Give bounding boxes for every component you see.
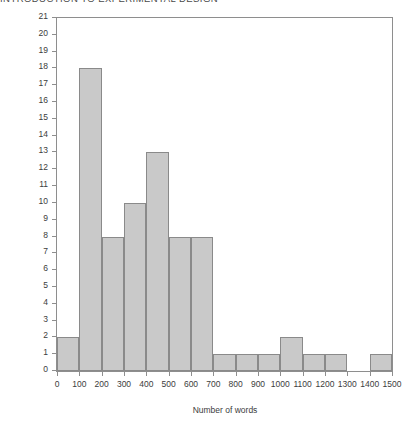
histogram-bar — [57, 337, 79, 371]
y-axis-tick: 8 — [52, 236, 57, 237]
x-axis-tick: 1000 — [280, 371, 281, 376]
histogram-bar — [236, 354, 258, 371]
y-axis-tick-label: 1 — [43, 347, 48, 357]
y-axis-tick: 20 — [52, 34, 57, 35]
y-axis-tick: 9 — [52, 219, 57, 220]
x-axis-tick-label: 1000 — [271, 379, 290, 389]
x-axis-title: Number of words — [56, 405, 394, 415]
y-axis-tick: 14 — [52, 135, 57, 136]
y-axis-tick-label: 4 — [43, 297, 48, 307]
x-axis-tick-label: 500 — [162, 379, 176, 389]
x-axis-tick: 300 — [124, 371, 125, 376]
y-axis-tick-label: 9 — [43, 213, 48, 223]
histogram-bar — [280, 337, 302, 371]
x-axis-tick: 100 — [79, 371, 80, 376]
y-axis-tick-label: 19 — [39, 45, 48, 55]
y-axis-tick-label: 21 — [39, 11, 48, 21]
x-axis-tick-label: 100 — [72, 379, 86, 389]
x-axis-tick-label: 700 — [206, 379, 220, 389]
y-axis-tick-label: 15 — [39, 112, 48, 122]
x-axis-tick: 600 — [191, 371, 192, 376]
y-axis-tick: 19 — [52, 51, 57, 52]
x-axis-tick-label: 1400 — [360, 379, 379, 389]
x-axis-tick-label: 300 — [117, 379, 131, 389]
y-axis-tick: 17 — [52, 84, 57, 85]
x-axis-tick: 500 — [169, 371, 170, 376]
y-axis-tick: 2 — [52, 336, 57, 337]
plot-area: 0123456789101112131415161718192021010020… — [56, 17, 393, 372]
y-axis-tick: 4 — [52, 303, 57, 304]
x-axis-tick: 200 — [102, 371, 103, 376]
y-axis-tick: 21 — [52, 17, 57, 18]
y-axis-tick: 6 — [52, 269, 57, 270]
x-axis-tick: 1200 — [325, 371, 326, 376]
x-axis-tick-label: 400 — [139, 379, 153, 389]
histogram-bar — [169, 237, 191, 371]
histogram-bar — [325, 354, 347, 371]
y-axis-tick-label: 14 — [39, 129, 48, 139]
x-axis-tick-label: 800 — [229, 379, 243, 389]
histogram-bar — [303, 354, 325, 371]
y-axis-tick: 11 — [52, 185, 57, 186]
histogram-bar — [146, 152, 168, 371]
x-axis-tick-label: 900 — [251, 379, 265, 389]
y-axis-tick: 18 — [52, 67, 57, 68]
histogram-bar — [258, 354, 280, 371]
y-axis-tick: 16 — [52, 101, 57, 102]
histogram-bar — [102, 237, 124, 371]
histogram-bar — [370, 354, 392, 371]
y-axis-tick-label: 0 — [43, 364, 48, 374]
x-axis-tick: 0 — [57, 371, 58, 376]
x-axis-tick-label: 1500 — [383, 379, 402, 389]
y-axis-tick-label: 20 — [39, 28, 48, 38]
x-axis-tick-label: 0 — [55, 379, 60, 389]
x-axis-tick-label: 600 — [184, 379, 198, 389]
y-axis-tick-label: 10 — [39, 196, 48, 206]
y-axis-tick: 1 — [52, 353, 57, 354]
x-axis-tick: 900 — [258, 371, 259, 376]
x-axis-tick-label: 1200 — [316, 379, 335, 389]
y-axis-tick-label: 17 — [39, 78, 48, 88]
x-axis-tick: 400 — [146, 371, 147, 376]
y-axis-tick: 15 — [52, 118, 57, 119]
x-axis-tick-label: 1100 — [294, 379, 312, 389]
y-axis-tick: 12 — [52, 168, 57, 169]
histogram-bar — [124, 203, 146, 371]
y-axis-tick: 5 — [52, 286, 57, 287]
x-axis-tick-label: 200 — [95, 379, 109, 389]
y-axis-tick: 13 — [52, 151, 57, 152]
histogram-figure: Number of participants 01234567891011121… — [0, 0, 406, 423]
x-axis-tick: 700 — [213, 371, 214, 376]
x-axis-tick: 1100 — [303, 371, 304, 376]
x-axis-tick: 800 — [236, 371, 237, 376]
y-axis-tick-label: 5 — [43, 280, 48, 290]
histogram-bar — [213, 354, 235, 371]
y-axis-tick-label: 8 — [43, 230, 48, 240]
y-axis-tick-label: 18 — [39, 61, 48, 71]
y-axis-tick: 7 — [52, 252, 57, 253]
y-axis-tick-label: 12 — [39, 162, 48, 172]
histogram-bar — [79, 68, 101, 371]
histogram-bar — [191, 237, 213, 371]
x-axis-tick-label: 1300 — [338, 379, 357, 389]
y-axis-tick-label: 16 — [39, 95, 48, 105]
y-axis-tick-label: 13 — [39, 145, 48, 155]
x-axis-tick: 1300 — [347, 371, 348, 376]
y-axis-tick-label: 6 — [43, 263, 48, 273]
x-axis-tick: 1400 — [370, 371, 371, 376]
y-axis-tick-label: 2 — [43, 330, 48, 340]
bars-container — [57, 18, 392, 371]
y-axis-tick: 10 — [52, 202, 57, 203]
y-axis-tick: 3 — [52, 320, 57, 321]
y-axis-tick-label: 7 — [43, 246, 48, 256]
y-axis-tick-label: 11 — [39, 179, 48, 189]
y-axis-tick-label: 3 — [43, 314, 48, 324]
x-axis-tick: 1500 — [392, 371, 393, 376]
